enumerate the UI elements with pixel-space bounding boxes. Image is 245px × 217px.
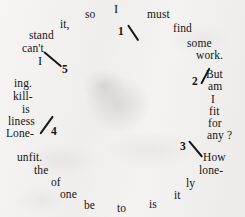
ring-word: some	[187, 38, 212, 50]
ring-word: it	[174, 190, 181, 202]
ring-word: any ?	[207, 130, 232, 142]
ring-word: can't	[22, 43, 44, 55]
stroke-5	[43, 51, 62, 67]
break-numeral-1: 1	[118, 26, 124, 38]
ring-word: I	[114, 3, 118, 16]
ring-word: liness	[8, 116, 35, 128]
ring-word: one	[60, 189, 77, 201]
ring-word: fit	[209, 106, 220, 118]
ring-word: ing.	[14, 78, 32, 90]
scanned-page: soImustit,findstandsomecan'twork.IButami…	[0, 0, 245, 217]
ring-word: must	[147, 9, 170, 21]
ring-word: is	[149, 199, 157, 211]
ring-word: I	[38, 55, 42, 68]
ring-word: work.	[196, 50, 223, 62]
ring-word: ly	[186, 178, 195, 190]
ring-word: the	[34, 165, 48, 177]
ring-word: am	[208, 81, 222, 93]
ring-word: lone-	[199, 165, 223, 177]
break-numeral-5: 5	[62, 64, 68, 76]
ring-word: for	[208, 118, 222, 130]
break-numeral-3: 3	[180, 141, 186, 153]
ring-word: unfit.	[17, 152, 42, 164]
stroke-3	[188, 140, 203, 157]
ring-word: Lone-	[6, 128, 34, 140]
ring-word: be	[84, 200, 95, 212]
ring-word: find	[173, 23, 192, 35]
ring-word: it,	[60, 19, 70, 31]
stroke-1	[127, 24, 139, 41]
ring-word: kill-	[13, 91, 33, 103]
ring-word: How	[203, 152, 226, 164]
break-numeral-4: 4	[51, 126, 57, 138]
break-numeral-2: 2	[192, 76, 198, 88]
ring-word: to	[117, 203, 126, 215]
ring-word: stand	[29, 30, 54, 42]
ring-word: is	[22, 104, 30, 116]
ring-word: I	[211, 94, 215, 106]
ring-word: of	[51, 177, 61, 189]
ring-word: so	[85, 9, 95, 21]
